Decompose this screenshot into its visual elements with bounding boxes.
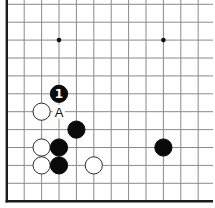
go-board-diagram: 1 A (0, 0, 215, 208)
point-label-text: A (55, 105, 64, 120)
white-stone-disc (33, 139, 50, 156)
white-stone (33, 157, 50, 174)
white-stone-disc (85, 157, 102, 174)
star-point (57, 38, 62, 43)
black-stone-disc (50, 139, 67, 156)
white-stone (33, 103, 50, 120)
black-stone (155, 139, 172, 156)
black-stone-disc (50, 157, 67, 174)
white-stone (33, 139, 50, 156)
black-stone-disc (68, 121, 85, 138)
black-stone (50, 157, 67, 174)
point-label: A (53, 105, 65, 120)
black-stone-disc (155, 139, 172, 156)
move-number: 1 (55, 87, 63, 101)
black-stone (68, 121, 85, 138)
point-labels-layer: A (53, 105, 65, 120)
white-stone-disc (33, 157, 50, 174)
white-stone-disc (33, 103, 50, 120)
white-stone (85, 157, 102, 174)
black-stone: 1 (50, 85, 67, 102)
star-point (161, 38, 166, 43)
black-stone (50, 139, 67, 156)
